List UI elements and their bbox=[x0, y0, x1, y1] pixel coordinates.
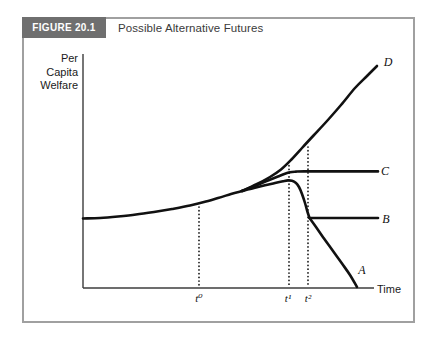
tick-label-t1: t¹ bbox=[285, 292, 291, 304]
curve-label-C: C bbox=[381, 164, 389, 179]
curve-label-D: D bbox=[384, 55, 393, 70]
tick-label-t2: t² bbox=[305, 292, 311, 304]
curve-A bbox=[310, 218, 358, 287]
chart-canvas bbox=[0, 0, 443, 341]
tick-label-t0: t⁰ bbox=[195, 292, 202, 305]
page: { "figure_header": { "label": "FIGURE 20… bbox=[0, 0, 443, 341]
curve-common-path bbox=[83, 191, 242, 219]
curve-label-B: B bbox=[382, 212, 389, 227]
curve-label-A: A bbox=[358, 263, 365, 278]
